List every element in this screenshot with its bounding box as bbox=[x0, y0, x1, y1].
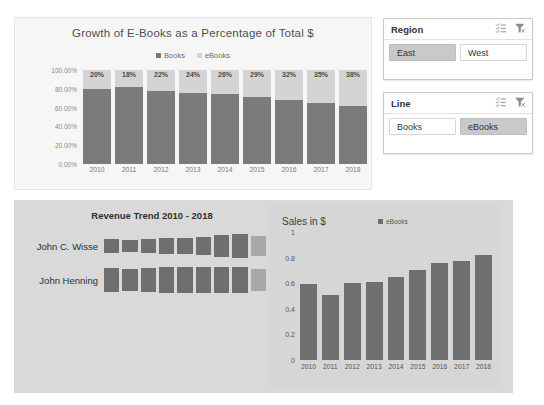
revenue-trend-bar[interactable] bbox=[122, 269, 137, 291]
slicer-item-ebooks[interactable]: eBooks bbox=[460, 118, 527, 135]
revenue-trend-chart[interactable]: Revenue Trend 2010 - 2018 John C. Wisse … bbox=[16, 204, 266, 304]
y-axis-tick: 20.00% bbox=[55, 142, 77, 149]
sales-bar[interactable] bbox=[431, 263, 448, 360]
stacked-bar-column[interactable]: 24% bbox=[179, 70, 207, 164]
legend-swatch-ebooks bbox=[378, 219, 383, 224]
sales-bar[interactable] bbox=[300, 284, 317, 360]
bar-segment-ebooks[interactable]: 32% bbox=[275, 70, 303, 100]
bar-segment-books[interactable] bbox=[211, 94, 239, 164]
revenue-trend-bar[interactable] bbox=[122, 240, 137, 251]
bar-segment-ebooks[interactable]: 26% bbox=[211, 70, 239, 94]
x-axis-tick: 2010 bbox=[300, 363, 317, 370]
stacked-bars: 20%18%22%24%26%29%32%35%38% bbox=[83, 70, 367, 164]
sales-bars bbox=[300, 232, 492, 360]
revenue-trend-bar[interactable] bbox=[214, 267, 229, 293]
sales-bar[interactable] bbox=[322, 295, 339, 360]
bar-data-label: 32% bbox=[275, 71, 303, 78]
slicer-region[interactable]: Region EastWest bbox=[383, 18, 533, 80]
revenue-trend-bar[interactable] bbox=[251, 269, 266, 291]
slicer-items: EastWest bbox=[384, 40, 532, 66]
growth-of-ebooks-chart[interactable]: Growth of E-Books as a Percentage of Tot… bbox=[14, 17, 372, 190]
revenue-trend-row-label: John C. Wisse bbox=[16, 241, 104, 252]
y-axis-tick: 100.00% bbox=[51, 67, 77, 74]
sales-bar[interactable] bbox=[344, 283, 361, 360]
bar-segment-ebooks[interactable]: 29% bbox=[243, 70, 271, 97]
bar-segment-ebooks[interactable]: 20% bbox=[83, 70, 111, 89]
multi-select-icon[interactable] bbox=[495, 22, 507, 34]
slicer-item-east[interactable]: East bbox=[389, 44, 456, 61]
bar-segment-ebooks[interactable]: 18% bbox=[115, 70, 143, 87]
x-axis-tick: 2013 bbox=[179, 166, 207, 173]
stacked-bar-column[interactable]: 18% bbox=[115, 70, 143, 164]
x-axis-tick: 2012 bbox=[147, 166, 175, 173]
bar-segment-books[interactable] bbox=[307, 103, 335, 164]
x-axis-tick: 2011 bbox=[115, 166, 143, 173]
bar-segment-books[interactable] bbox=[243, 97, 271, 164]
multi-select-icon[interactable] bbox=[495, 96, 507, 108]
y-axis-tick: 0.2 bbox=[285, 331, 295, 338]
bar-data-label: 35% bbox=[307, 71, 335, 78]
revenue-trend-bar[interactable] bbox=[141, 268, 156, 293]
revenue-trend-bar[interactable] bbox=[159, 238, 174, 254]
revenue-trend-bar[interactable] bbox=[251, 236, 266, 257]
bar-data-label: 18% bbox=[115, 71, 143, 78]
sales-bar[interactable] bbox=[475, 255, 492, 360]
revenue-trend-bar[interactable] bbox=[159, 267, 174, 292]
revenue-trend-bar[interactable] bbox=[196, 237, 211, 256]
bar-data-label: 26% bbox=[211, 71, 239, 78]
x-axis-tick: 2015 bbox=[243, 166, 271, 173]
revenue-trend-title: Revenue Trend 2010 - 2018 bbox=[16, 210, 266, 221]
revenue-trend-bar[interactable] bbox=[232, 267, 247, 294]
bar-segment-ebooks[interactable]: 38% bbox=[339, 70, 367, 106]
bar-segment-ebooks[interactable]: 24% bbox=[179, 70, 207, 93]
stacked-bar-column[interactable]: 22% bbox=[147, 70, 175, 164]
bottom-panel: Revenue Trend 2010 - 2018 John C. Wisse … bbox=[14, 200, 513, 393]
bar-segment-ebooks[interactable]: 22% bbox=[147, 70, 175, 91]
sales-in-dollars-chart[interactable]: Sales in $ eBooks 00.20.40.60.81 2010201… bbox=[268, 206, 498, 388]
revenue-trend-bar[interactable] bbox=[104, 268, 119, 293]
bar-segment-books[interactable] bbox=[147, 91, 175, 164]
sales-bar[interactable] bbox=[453, 261, 470, 360]
stacked-bar-column[interactable]: 29% bbox=[243, 70, 271, 164]
slicer-header: Line bbox=[384, 93, 532, 114]
sales-bar[interactable] bbox=[388, 277, 405, 360]
bar-segment-books[interactable] bbox=[83, 89, 111, 164]
stacked-bar-column[interactable]: 38% bbox=[339, 70, 367, 164]
x-axis-tick: 2010 bbox=[83, 166, 111, 173]
revenue-trend-bar[interactable] bbox=[141, 239, 156, 253]
revenue-trend-bar[interactable] bbox=[177, 238, 192, 255]
revenue-trend-bar[interactable] bbox=[196, 267, 211, 293]
y-axis-tick: 0.00% bbox=[59, 161, 77, 168]
x-axis-tick: 2015 bbox=[409, 363, 426, 370]
revenue-trend-bar[interactable] bbox=[177, 267, 192, 292]
bar-segment-books[interactable] bbox=[275, 100, 303, 164]
slicer-title: Line bbox=[391, 98, 411, 109]
revenue-trend-bar[interactable] bbox=[104, 239, 119, 253]
slicer-header-icons bbox=[495, 22, 526, 34]
legend-label-ebooks: eBooks bbox=[205, 51, 230, 60]
bar-segment-books[interactable] bbox=[339, 106, 367, 164]
revenue-trend-bars bbox=[104, 266, 266, 294]
revenue-trend-bar[interactable] bbox=[214, 235, 229, 258]
slicer-item-books[interactable]: Books bbox=[389, 118, 456, 135]
y-axis-tick: 60.00% bbox=[55, 104, 77, 111]
clear-filter-icon[interactable] bbox=[514, 22, 526, 34]
bar-segment-books[interactable] bbox=[179, 93, 207, 164]
y-axis-tick: 0.4 bbox=[285, 305, 295, 312]
stacked-bar-column[interactable]: 26% bbox=[211, 70, 239, 164]
sales-bar[interactable] bbox=[366, 282, 383, 360]
bar-segment-ebooks[interactable]: 35% bbox=[307, 70, 335, 103]
revenue-trend-row-label: John Henning bbox=[16, 275, 104, 286]
sales-bar[interactable] bbox=[409, 270, 426, 360]
slicer-item-west[interactable]: West bbox=[460, 44, 527, 61]
revenue-trend-bar[interactable] bbox=[232, 234, 247, 258]
bar-data-label: 24% bbox=[179, 71, 207, 78]
x-axis: 201020112012201320142015201620172018 bbox=[83, 166, 367, 173]
bar-segment-books[interactable] bbox=[115, 87, 143, 164]
slicer-line[interactable]: Line BookseBooks bbox=[383, 92, 533, 154]
clear-filter-icon[interactable] bbox=[514, 96, 526, 108]
stacked-bar-column[interactable]: 35% bbox=[307, 70, 335, 164]
stacked-bar-column[interactable]: 20% bbox=[83, 70, 111, 164]
x-axis-tick: 2017 bbox=[453, 363, 470, 370]
stacked-bar-column[interactable]: 32% bbox=[275, 70, 303, 164]
